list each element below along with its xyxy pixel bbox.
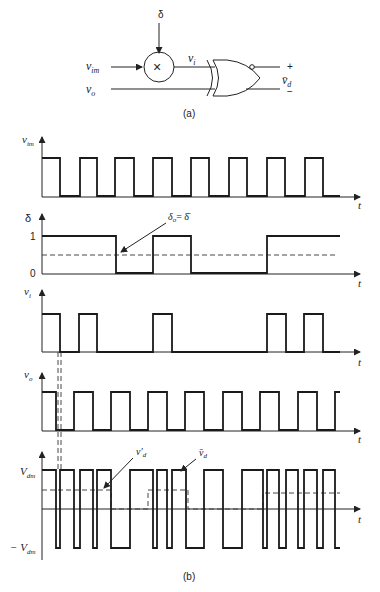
output-plus-sign: + [287,61,293,72]
delta-trace [42,236,340,273]
xnor-input-curve [207,60,213,96]
t-label: t [358,199,362,211]
circuit-diagram: δ × vim vo vi + v̄d − (a) [86,9,293,119]
waveform-v-i: vi t [24,285,362,368]
multiplier-symbol: × [153,59,161,75]
delta-axis-label: δ [25,212,31,224]
v-im-label: vim [86,59,100,75]
caption-a: (a) [183,108,195,119]
v-i-trace [42,314,340,352]
output-minus-sign: − [287,86,293,97]
vd-prime-arrow [104,458,133,488]
t-label: t [358,433,362,445]
xnor-bubble [250,65,255,70]
delta-o-arrow [121,223,166,252]
vd-bar-arrow [181,459,196,471]
v-im-trace [42,158,340,196]
waveform-v-d: t Vdm − Vdm v′d v̄d [10,446,362,560]
waveform-panel: vim t δ t 1 0 δo= δ̄ vi t [10,133,362,582]
vd-prime-annotation: v′d [136,446,147,459]
vd-bar-annotation: v̄d [199,447,207,460]
delta-input-label: δ [158,9,164,20]
waveform-delta: δ t 1 0 δo= δ̄ [25,211,362,289]
v-d-average-trace [42,490,340,509]
v-o-trace [42,392,340,430]
delta-tick-1: 1 [30,231,36,242]
v-im-axis-label: vim [22,133,34,148]
phase-detector-figure: δ × vim vo vi + v̄d − (a) vim t [0,0,380,592]
t-label: t [358,513,362,525]
delta-o-annotation: δo= δ̄ [168,211,191,224]
v-o-axis-label: vo [24,368,33,383]
v-i-label: vi [188,51,196,67]
t-label: t [358,356,362,368]
v-o-label: vo [86,82,95,98]
waveform-v-im: vim t [22,133,362,211]
vdm-tick-label: Vdm [20,465,35,480]
waveform-v-o: vo t [24,368,362,445]
caption-b: (b) [183,571,195,582]
delta-tick-0: 0 [30,268,36,279]
neg-vdm-tick-label: − Vdm [10,541,35,556]
t-label: t [358,277,362,289]
v-i-axis-label: vi [24,285,31,300]
